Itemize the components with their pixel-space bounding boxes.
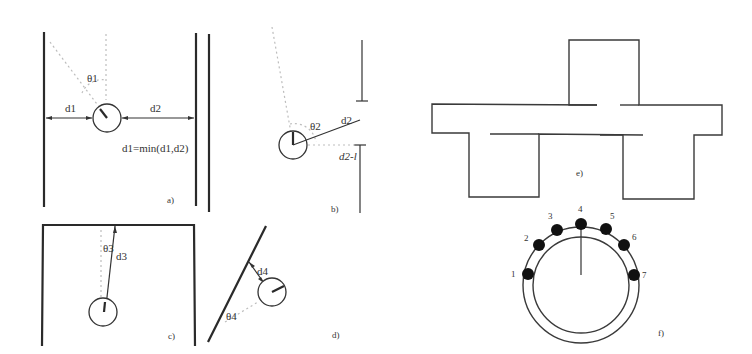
sensor-7-icon [628, 269, 640, 281]
arrowhead-icon [113, 226, 117, 233]
sensor-3-icon [551, 224, 563, 236]
sensor-4-icon [575, 218, 587, 230]
arrowhead-icon [122, 116, 128, 120]
sensor-label: 6 [632, 232, 637, 242]
sensor-label: 5 [610, 211, 615, 221]
panel-caption-d: d) [332, 330, 340, 340]
arrowhead-icon [86, 116, 92, 120]
formula-label: d1=min(d1,d2) [122, 142, 189, 155]
angle-label: θ1 [87, 72, 98, 84]
sensor-ray [272, 27, 293, 144]
arrowhead-icon [188, 116, 194, 120]
sensor-label: 4 [578, 204, 583, 214]
arrowhead-icon [249, 262, 255, 268]
panel-c: θ3 d3 c) [42, 225, 195, 346]
d2-label: d2 [150, 102, 161, 114]
panel-caption-b: b) [331, 204, 339, 214]
slanted-wall [208, 226, 266, 342]
floor-plan-left [432, 104, 643, 197]
sensor-1-icon [522, 268, 534, 280]
d2-label: d2 [341, 114, 352, 126]
panel-caption-f: f) [658, 328, 664, 338]
sensor-label: 1 [511, 269, 516, 279]
panel-caption-e: e) [576, 168, 583, 178]
sensor-6-icon [618, 239, 630, 251]
d3-label: d3 [116, 250, 128, 262]
sensor-5-icon [600, 223, 612, 235]
panel-e: e) [432, 40, 722, 199]
figure-stage: θ1 d1 d2 d1=min(d1,d2) a) θ2 d2 d2-l b) … [0, 0, 752, 354]
panel-d: d4 θ4 d) [208, 226, 340, 342]
robot-circle [89, 298, 117, 326]
d4-label: d4 [257, 265, 269, 277]
panel-b: θ2 d2 d2-l b) [272, 27, 368, 214]
robot-sensing-diagram: θ1 d1 d2 d1=min(d1,d2) a) θ2 d2 d2-l b) … [0, 0, 752, 354]
robot-heading [104, 302, 105, 312]
panel-a: θ1 d1 d2 d1=min(d1,d2) a) [44, 32, 209, 212]
sensor-label: 2 [524, 233, 529, 243]
d1-label: d1 [65, 102, 76, 114]
angle-label: θ2 [310, 120, 321, 132]
sensor-label: 3 [548, 211, 553, 221]
arrowhead-icon [46, 116, 52, 120]
panel-f: 1 2 3 4 5 6 7 f) [511, 204, 664, 343]
angle-label: θ3 [103, 242, 114, 254]
floor-plan-right [569, 40, 722, 199]
angle-label: θ4 [226, 310, 237, 322]
gap-label: d2-l [339, 150, 357, 162]
panel-caption-a: a) [167, 195, 174, 205]
sensor-label: 7 [642, 270, 647, 280]
wall-corridor [42, 225, 195, 346]
sensor-2-icon [533, 239, 545, 251]
d3-arrow [106, 226, 115, 306]
panel-caption-c: c) [168, 331, 175, 341]
